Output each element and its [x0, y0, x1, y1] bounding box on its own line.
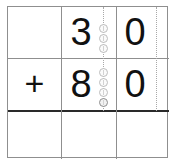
counter-dot-icon [99, 34, 108, 43]
place-value-grid: 3 0 + 8 0 [7, 6, 168, 158]
cell-operator-row1[interactable] [8, 7, 61, 58]
counter-dot-icon [99, 88, 108, 97]
cell-ones-row2[interactable]: 0 [117, 59, 169, 110]
digit-tens-row2: 8 [70, 65, 91, 103]
tens-markers-row1 [97, 19, 110, 57]
counter-dot-icon [99, 78, 108, 87]
plus-operator: + [25, 66, 45, 100]
counter-dot-icon [99, 44, 108, 53]
counter-dot-filled-icon [99, 98, 108, 107]
digit-ones-row1: 0 [124, 13, 145, 51]
tens-markers-row2 [97, 64, 110, 110]
digit-ones-row2: 0 [124, 65, 145, 103]
cell-ones-answer[interactable] [117, 112, 169, 158]
addition-worksheet: 3 0 + 8 0 [0, 0, 176, 165]
counter-dot-icon [99, 68, 108, 77]
cell-operator-answer[interactable] [8, 112, 61, 158]
digit-tens-row1: 3 [70, 13, 91, 51]
cell-tens-answer[interactable] [62, 112, 116, 158]
cell-operator-row2[interactable]: + [8, 59, 61, 110]
cell-ones-row1[interactable]: 0 [117, 7, 169, 58]
counter-dot-icon [99, 24, 108, 33]
